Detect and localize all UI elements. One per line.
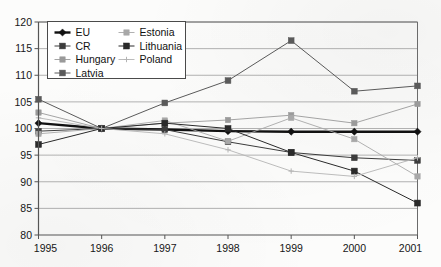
data-point (351, 155, 357, 161)
data-point (225, 126, 231, 132)
line-chart-figure: 80859095100105110115120 1995199619971998… (0, 0, 441, 267)
data-point (288, 115, 293, 120)
data-point (415, 200, 421, 206)
legend-label: Hungary (76, 53, 116, 65)
data-point (414, 128, 421, 135)
data-point (162, 120, 168, 126)
data-point (415, 83, 421, 89)
legend-marker (124, 30, 129, 35)
y-tick-label: 105 (14, 96, 32, 108)
legend-marker (60, 43, 66, 49)
y-tick-label: 120 (14, 16, 32, 28)
x-tick-label: 1997 (153, 242, 177, 254)
legend-label: Latvia (76, 67, 104, 79)
y-tick-label: 115 (15, 42, 32, 54)
y-tick-label: 85 (20, 202, 32, 214)
legend-label: EU (76, 26, 91, 38)
x-tick-label: 1998 (216, 242, 240, 254)
legend-marker (60, 57, 65, 62)
data-point (352, 120, 357, 125)
x-tick-label: 2000 (343, 242, 367, 254)
legend-marker (124, 43, 130, 49)
legend-marker (60, 70, 66, 76)
data-point (351, 128, 358, 135)
data-point (288, 128, 295, 135)
data-point (415, 101, 420, 106)
data-point (162, 100, 168, 106)
y-tick-label: 100 (14, 122, 32, 134)
data-point (415, 174, 420, 179)
chart-canvas: 80859095100105110115120 1995199619971998… (0, 0, 441, 267)
x-tick-label: 2001 (399, 242, 423, 254)
legend-label: Estonia (140, 26, 175, 38)
legend-label: Poland (140, 53, 173, 65)
chart-legend: EUEstoniaCRLithuaniaHungaryPolandLatvia (48, 22, 186, 79)
y-tick-label: 80 (20, 229, 32, 241)
y-tick-label: 90 (20, 176, 32, 188)
legend-label: CR (76, 40, 92, 52)
data-point (288, 149, 294, 155)
y-tick-label: 95 (20, 149, 32, 161)
data-point (225, 78, 231, 84)
series-line (39, 104, 418, 128)
data-point (351, 168, 357, 174)
y-axis-labels: 80859095100105110115120 (14, 16, 38, 241)
data-point (288, 38, 294, 44)
legend-label: Lithuania (140, 40, 183, 52)
data-point (351, 88, 357, 94)
series-line (39, 123, 418, 203)
data-point (352, 136, 357, 141)
data-point (225, 139, 230, 144)
x-tick-label: 1995 (34, 242, 58, 254)
data-point (225, 117, 230, 122)
x-axis-labels: 1995199619971998199920002001 (34, 235, 423, 254)
y-tick-label: 110 (15, 69, 32, 81)
x-tick-label: 1996 (90, 242, 114, 254)
x-tick-label: 1999 (279, 242, 303, 254)
